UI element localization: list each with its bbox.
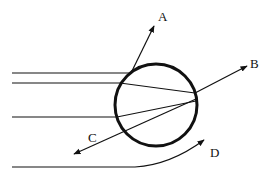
label-b: B [250, 56, 259, 71]
ray-b [195, 66, 247, 93]
incident-ray-2 [12, 83, 195, 93]
diffracted-ray-d [12, 140, 204, 167]
sphere [115, 64, 197, 146]
label-d: D [210, 145, 219, 160]
ray-diagram: A B C D [0, 0, 271, 174]
incident-ray-3 [12, 101, 196, 117]
ray-c [74, 99, 196, 154]
label-c: C [88, 130, 97, 145]
label-a: A [158, 9, 168, 24]
